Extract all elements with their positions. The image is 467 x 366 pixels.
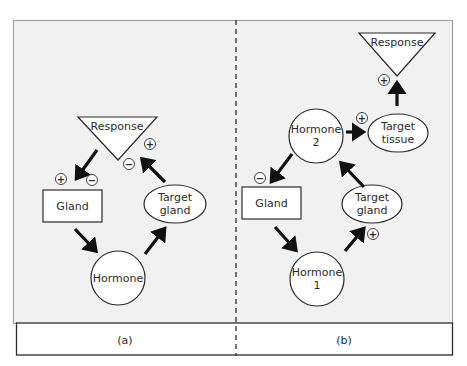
response-label: Response (371, 36, 424, 49)
target-gland-label: gland (160, 204, 191, 217)
svg-text:+: + (358, 113, 366, 124)
hormone-1-label: 1 (314, 279, 321, 292)
target-gland-label: Target (157, 191, 193, 204)
plus-sign-icon: + (368, 229, 379, 240)
caption-b: (b) (336, 334, 352, 347)
svg-text:−: − (125, 159, 133, 170)
hormone-2-label: Hormone (291, 123, 342, 136)
diagram: (a) (b) Response + − + − Gland Target (0, 0, 467, 366)
gland-label: Gland (255, 197, 287, 210)
target-gland-label: Target (354, 191, 390, 204)
gland-label: Gland (56, 200, 88, 213)
svg-text:+: + (369, 229, 377, 240)
response-label: Response (91, 120, 144, 133)
svg-text:−: − (88, 175, 96, 186)
feedback-diagram-svg: (a) (b) Response + − + − Gland Target (0, 0, 467, 366)
minus-sign-icon: − (124, 159, 135, 170)
svg-text:+: + (146, 139, 154, 150)
minus-sign-icon: − (87, 175, 98, 186)
plus-sign-icon: + (56, 174, 67, 185)
svg-text:+: + (380, 75, 388, 86)
caption-a: (a) (117, 334, 132, 347)
hormone-2-label: 2 (313, 136, 320, 149)
target-gland-label: gland (357, 204, 388, 217)
svg-text:−: − (256, 173, 264, 184)
plus-sign-icon: + (379, 75, 390, 86)
caption-strip (17, 323, 453, 355)
plus-sign-icon: + (145, 139, 156, 150)
hormone-label: Hormone (93, 272, 144, 285)
plus-sign-icon: + (357, 113, 368, 124)
hormone-1-label: Hormone (292, 266, 343, 279)
svg-text:+: + (57, 174, 65, 185)
target-tissue-label: Target (380, 120, 416, 133)
minus-sign-icon: − (255, 173, 266, 184)
target-tissue-label: tissue (382, 133, 415, 146)
